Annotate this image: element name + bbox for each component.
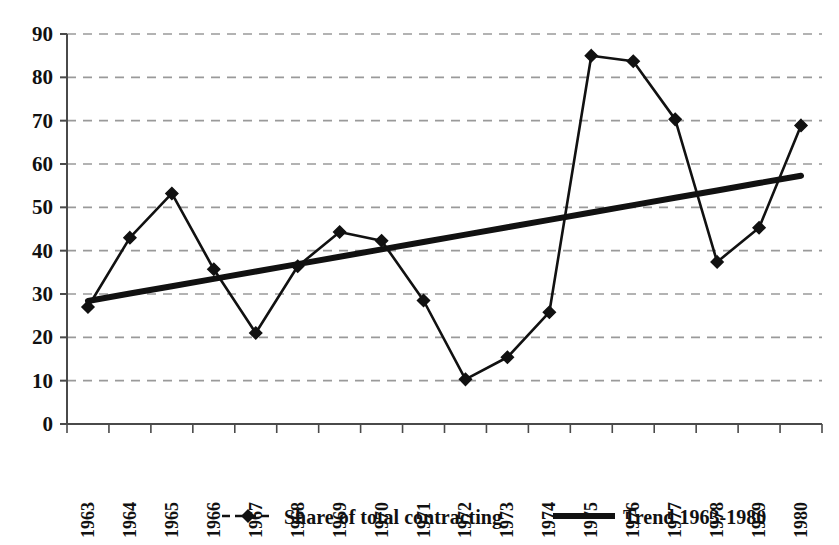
y-tick-label-0: 0 bbox=[43, 412, 54, 436]
chart-legend: Share of total contractingTrend 1963-198… bbox=[222, 506, 766, 529]
x-tick-label-1966: 1966 bbox=[204, 502, 224, 538]
x-tick-label-1975: 1975 bbox=[581, 502, 601, 538]
x-tick-label-1964: 1964 bbox=[120, 502, 140, 538]
x-tick-label-1963: 1963 bbox=[78, 502, 98, 538]
y-tick-label-30: 30 bbox=[32, 282, 53, 306]
legend-label-share: Share of total contracting bbox=[284, 506, 502, 529]
y-tick-label-20: 20 bbox=[32, 325, 53, 349]
chart-screenshot: 0102030405060708090 19631964196519661967… bbox=[0, 0, 839, 545]
y-tick-label-40: 40 bbox=[32, 239, 53, 263]
y-tick-label-10: 10 bbox=[32, 369, 53, 393]
y-tick-label-50: 50 bbox=[32, 195, 53, 219]
legend-label-trend: Trend 1963-1980 bbox=[623, 506, 766, 528]
x-tick-label-1965: 1965 bbox=[162, 502, 182, 538]
x-tick-label-1980: 1980 bbox=[791, 502, 811, 538]
chart-background bbox=[0, 0, 839, 545]
y-tick-label-90: 90 bbox=[32, 22, 53, 46]
chart-plot-area: 0102030405060708090 19631964196519661967… bbox=[0, 0, 839, 545]
y-tick-label-80: 80 bbox=[32, 65, 53, 89]
line-chart-svg: 0102030405060708090 19631964196519661967… bbox=[0, 0, 839, 545]
y-tick-label-70: 70 bbox=[32, 109, 53, 133]
y-tick-label-60: 60 bbox=[32, 152, 53, 176]
x-tick-label-1974: 1974 bbox=[539, 502, 559, 538]
